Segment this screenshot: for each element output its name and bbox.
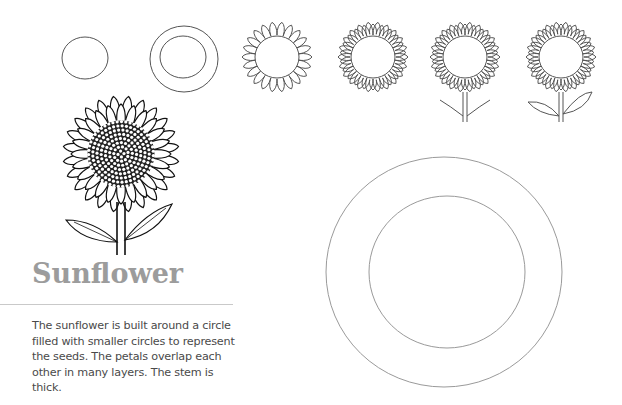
- step-2-double-circle-drawing: [148, 24, 220, 94]
- title-divider: [0, 304, 233, 305]
- step-6-leaves-drawing: [524, 20, 598, 124]
- step-5-stem-drawing: [428, 20, 502, 124]
- finished-sunflower-illustration: [54, 92, 188, 257]
- step-1-circle-drawing: [60, 35, 110, 81]
- description-text: The sunflower is built around a circle f…: [32, 318, 242, 396]
- page-title: Sunflower: [32, 258, 183, 289]
- step-4-layered-petals-drawing: [336, 20, 410, 94]
- practice-double-circle-drawing: [310, 148, 570, 396]
- step-3-petal-ring-drawing: [240, 20, 314, 94]
